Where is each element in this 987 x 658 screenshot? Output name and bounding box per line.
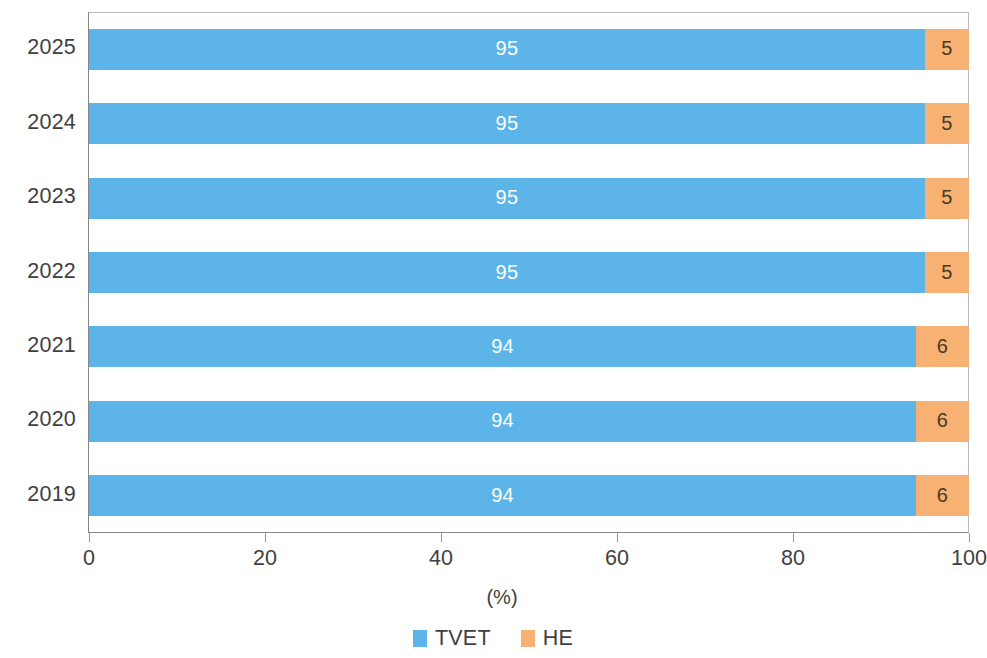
bar-segment-he: 5 (925, 103, 969, 144)
bar-row: 955 (89, 178, 969, 219)
bar-segment-he: 6 (916, 401, 969, 442)
bar-value-label: 6 (937, 335, 948, 358)
bar-segment-he: 5 (925, 178, 969, 219)
legend-label: TVET (435, 626, 491, 651)
bar-row: 946 (89, 475, 969, 516)
bar-value-label: 95 (496, 37, 519, 60)
y-axis-category-labels: 2025202420232022202120202019 (0, 12, 76, 533)
y-axis-label: 2023 (0, 184, 76, 209)
y-axis-label: 2024 (0, 110, 76, 135)
legend-label: HE (543, 626, 573, 651)
bar-segment-tvet: 94 (89, 475, 916, 516)
x-axis-title-text: (%) (486, 586, 517, 608)
bar-rows: 955955955955946946946 (89, 12, 969, 533)
bar-value-label: 6 (937, 409, 948, 432)
bar-row: 946 (89, 401, 969, 442)
bar-value-label: 5 (941, 186, 952, 209)
bar-row: 955 (89, 29, 969, 70)
x-axis-title: (%) (0, 586, 986, 609)
y-axis-label: 2019 (0, 482, 76, 507)
bar-row: 955 (89, 103, 969, 144)
x-tick-label: 60 (605, 546, 629, 571)
bar-segment-tvet: 94 (89, 401, 916, 442)
bar-value-label: 6 (937, 484, 948, 507)
x-tick-label: 100 (951, 546, 987, 571)
bar-segment-he: 6 (916, 326, 969, 367)
bar-segment-tvet: 95 (89, 252, 925, 293)
x-tick-label: 0 (83, 546, 95, 571)
y-axis-label: 2025 (0, 35, 76, 60)
bar-segment-he: 6 (916, 475, 969, 516)
bar-segment-tvet: 94 (89, 326, 916, 367)
x-axis-ticks: 020406080100 (0, 533, 986, 579)
bar-value-label: 95 (496, 261, 519, 284)
x-tick-mark (793, 533, 794, 542)
x-tick-label: 20 (253, 546, 277, 571)
x-tick-mark (617, 533, 618, 542)
bar-value-label: 95 (496, 112, 519, 135)
x-tick-label: 80 (781, 546, 805, 571)
bar-segment-he: 5 (925, 29, 969, 70)
y-axis-label: 2021 (0, 333, 76, 358)
legend-swatch-icon (413, 630, 427, 647)
chart-legend: TVETHE (0, 626, 986, 651)
x-tick-mark (265, 533, 266, 542)
bar-segment-he: 5 (925, 252, 969, 293)
bar-value-label: 5 (941, 37, 952, 60)
y-axis-label: 2022 (0, 259, 76, 284)
legend-item-tvet[interactable]: TVET (413, 626, 491, 651)
x-tick-mark (89, 533, 90, 542)
legend-item-he[interactable]: HE (521, 626, 573, 651)
x-tick-label: 40 (429, 546, 453, 571)
bar-value-label: 94 (491, 335, 514, 358)
bar-row: 955 (89, 252, 969, 293)
bar-value-label: 95 (496, 186, 519, 209)
bar-value-label: 94 (491, 409, 514, 432)
y-axis-label: 2020 (0, 407, 76, 432)
bar-value-label: 5 (941, 112, 952, 135)
legend-swatch-icon (521, 630, 535, 647)
bar-value-label: 94 (491, 484, 514, 507)
bar-value-label: 5 (941, 261, 952, 284)
bar-segment-tvet: 95 (89, 178, 925, 219)
x-tick-mark (441, 533, 442, 542)
bar-segment-tvet: 95 (89, 29, 925, 70)
bar-row: 946 (89, 326, 969, 367)
x-tick-mark (969, 533, 970, 542)
bar-segment-tvet: 95 (89, 103, 925, 144)
